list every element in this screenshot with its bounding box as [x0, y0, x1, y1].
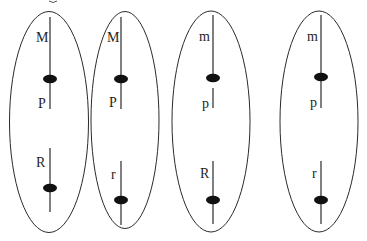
centromere-dot	[314, 196, 328, 204]
centromere-dot	[206, 74, 220, 82]
allele-label-upper: m	[199, 29, 210, 44]
cell-3-chromosome-1: m p	[199, 15, 220, 111]
cell-3-chromosome-2: R	[200, 161, 220, 224]
cell-1-chromosome-2: R	[36, 148, 57, 212]
cell-4-chromosome-1: m p	[307, 15, 328, 110]
cell-2: M P r	[91, 12, 159, 229]
cell-1-chromosome-1: M P	[36, 17, 57, 111]
allele-label-upper: m	[307, 29, 318, 44]
centromere-dot	[43, 75, 57, 83]
cropped-caption-fragment	[49, 1, 57, 3]
cell-3: m p R	[172, 11, 250, 232]
centromere-dot	[114, 75, 128, 83]
centromere-dot	[114, 196, 128, 204]
allele-label-lower: P	[38, 96, 46, 111]
centromere-dot	[43, 184, 57, 192]
centromere-dot	[206, 196, 220, 204]
cell-2-chromosome-1: M P	[107, 17, 128, 110]
allele-label-upper: M	[36, 30, 49, 45]
cell-2-outline	[91, 12, 159, 229]
allele-label-lower: P	[109, 95, 117, 110]
centromere-dot	[314, 73, 328, 81]
cell-2-chromosome-2: r	[111, 161, 128, 225]
gametes-diagram: M P R M P r m p	[0, 0, 367, 241]
cell-4-chromosome-2: r	[312, 161, 328, 224]
allele-label-upper: M	[107, 30, 120, 45]
cell-4: m p r	[280, 11, 358, 232]
allele-label: r	[111, 167, 116, 182]
allele-label-lower: p	[202, 96, 209, 111]
cell-1-outline	[10, 12, 89, 233]
allele-label: r	[312, 166, 317, 181]
allele-label: R	[36, 155, 46, 170]
allele-label-lower: p	[310, 95, 317, 110]
allele-label: R	[200, 166, 210, 181]
cell-1: M P R	[10, 12, 89, 233]
